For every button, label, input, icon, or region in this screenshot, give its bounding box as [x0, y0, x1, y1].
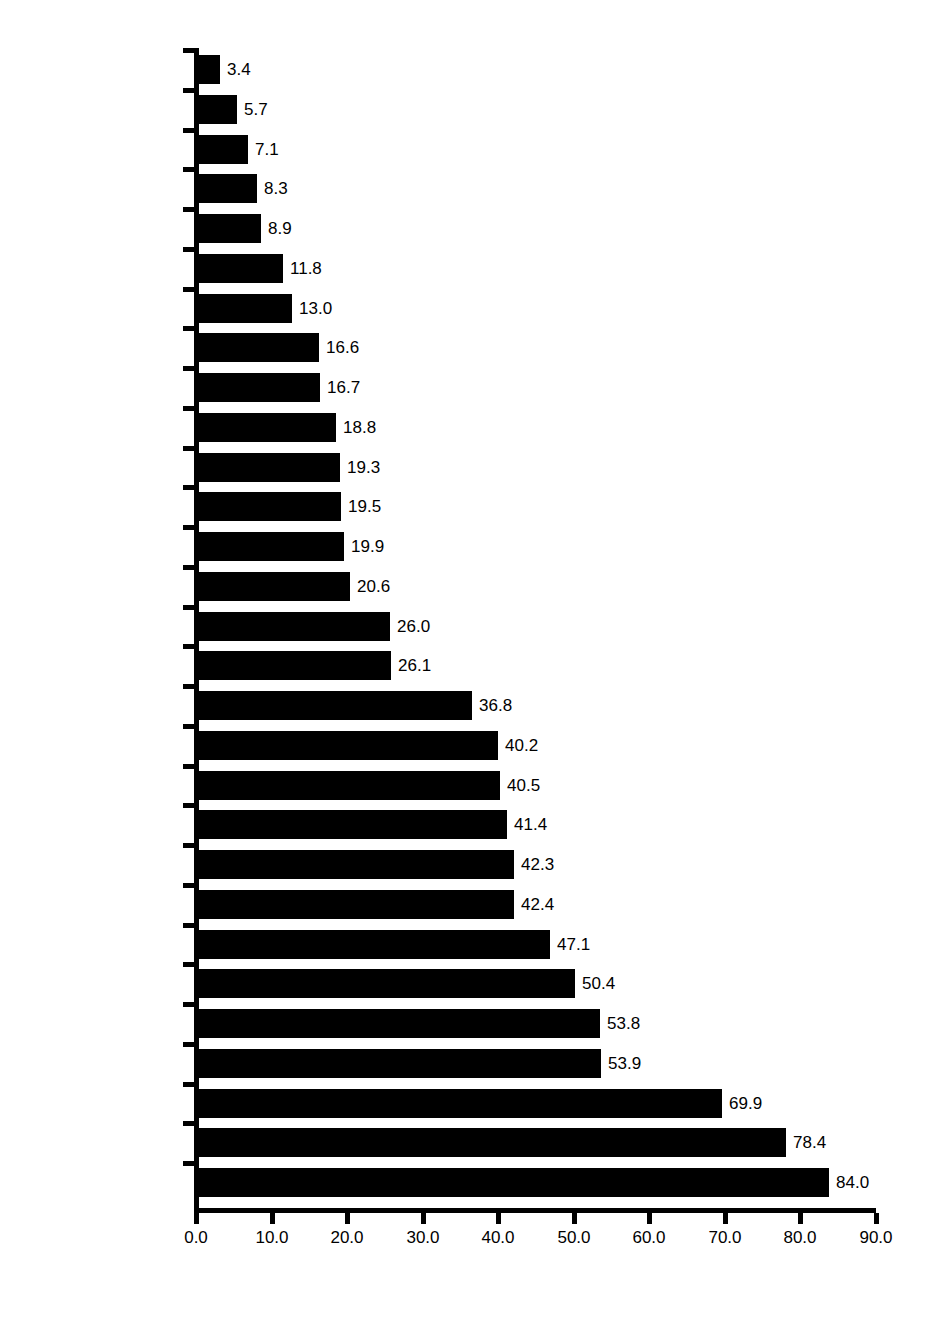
- bar-row: Guatemala41.4: [194, 810, 874, 839]
- bar-value-label: 53.8: [600, 1009, 640, 1038]
- x-axis-tick-label: 20.0: [307, 1228, 387, 1248]
- bar-value-label: 84.0: [829, 1168, 869, 1197]
- x-axis-tick-label: 80.0: [760, 1228, 840, 1248]
- bar-value-label: 47.1: [550, 930, 590, 959]
- bar: [194, 1168, 829, 1197]
- bar: [194, 930, 550, 959]
- x-axis-tick: [345, 1213, 350, 1224]
- y-axis-tick: [183, 406, 194, 411]
- bar-value-label: 40.5: [500, 771, 540, 800]
- y-axis-tick: [183, 247, 194, 252]
- bar-row: Trinidad40.2: [194, 731, 874, 760]
- y-axis-tick: [183, 803, 194, 808]
- y-axis-tick: [183, 684, 194, 689]
- bar-value-label: 36.8: [472, 691, 512, 720]
- x-axis-tick: [194, 1213, 199, 1224]
- bar: [194, 254, 283, 283]
- bar-value-label: 11.8: [283, 254, 322, 283]
- x-axis-tick: [798, 1213, 803, 1224]
- x-axis-tick: [421, 1213, 426, 1224]
- bar-value-label: 19.3: [340, 453, 380, 482]
- y-axis-tick: [183, 962, 194, 967]
- bar-value-label: 19.9: [344, 532, 384, 561]
- y-axis-tick: [183, 287, 194, 292]
- x-axis-tick: [496, 1213, 501, 1224]
- bar-row: Dominica8.9: [194, 214, 874, 243]
- bar-value-label: 3.4: [220, 55, 251, 84]
- y-axis-tick: [183, 1082, 194, 1087]
- y-axis-tick: [183, 644, 194, 649]
- bar: [194, 413, 336, 442]
- bar-value-label: 20.6: [350, 572, 390, 601]
- bar: [194, 771, 500, 800]
- bar-row: El Salvador19.3: [194, 453, 874, 482]
- bar-row: Argentina8.3: [194, 174, 874, 203]
- y-axis-tick: [183, 48, 194, 53]
- x-axis-tick-label: 50.0: [534, 1228, 614, 1248]
- y-axis-tick: [183, 326, 194, 331]
- y-axis-tick: [183, 207, 194, 212]
- y-axis-tick: [183, 128, 194, 133]
- bar-row: Chile16.6: [194, 333, 874, 362]
- bar-value-label: 42.4: [514, 890, 554, 919]
- bar-value-label: 16.7: [320, 373, 360, 402]
- bar: [194, 453, 340, 482]
- y-axis-tick: [183, 1161, 194, 1166]
- bar-row: Ecuador36.8: [194, 691, 874, 720]
- bar: [194, 214, 261, 243]
- bar-row: Grenada11.8: [194, 254, 874, 283]
- bar-row: Barbados16.7: [194, 373, 874, 402]
- bar-value-label: 5.7: [237, 95, 268, 124]
- y-axis-tick: [183, 883, 194, 888]
- bar-row: Uruguay7.1: [194, 135, 874, 164]
- bar: [194, 532, 344, 561]
- plot-area: Paraguay3.4St. Vincent5.7Uruguay7.1Argen…: [194, 55, 874, 1208]
- bar-value-label: 41.4: [507, 810, 547, 839]
- y-axis-tick: [183, 565, 194, 570]
- y-axis-tick: [183, 88, 194, 93]
- y-axis-tick: [183, 1002, 194, 1007]
- bar-row: Dominican Republic47.1: [194, 930, 874, 959]
- bar: [194, 373, 320, 402]
- bar: [194, 691, 472, 720]
- bar: [194, 55, 220, 84]
- bar-value-label: 26.1: [391, 651, 431, 680]
- bar: [194, 651, 391, 680]
- x-axis-tick-label: 10.0: [232, 1228, 312, 1248]
- y-axis-tick: [183, 1121, 194, 1126]
- chart-page: Paraguay3.4St. Vincent5.7Uruguay7.1Argen…: [0, 0, 933, 1318]
- y-axis-tick: [183, 167, 194, 172]
- bar-row: Bolivia26.1: [194, 651, 874, 680]
- bar-value-label: 50.4: [575, 969, 615, 998]
- bar: [194, 1009, 600, 1038]
- bar-value-label: 69.9: [722, 1089, 762, 1118]
- x-axis-tick-label: 90.0: [836, 1228, 916, 1248]
- bar-value-label: 8.3: [257, 174, 288, 203]
- bar: [194, 174, 257, 203]
- x-axis-tick-label: 70.0: [685, 1228, 765, 1248]
- bar-row: Venezuela53.9: [194, 1049, 874, 1078]
- bar-value-label: 19.5: [341, 492, 381, 521]
- y-axis-tick: [183, 843, 194, 848]
- y-axis-tick: [183, 724, 194, 729]
- bar-row: Panama13.0: [194, 294, 874, 323]
- y-axis-tick: [183, 605, 194, 610]
- bar-row: Peru19.9: [194, 532, 874, 561]
- bar: [194, 492, 341, 521]
- x-axis-tick: [270, 1213, 275, 1224]
- bar-row: Honduras69.9: [194, 1089, 874, 1118]
- x-axis-tick-label: 30.0: [383, 1228, 463, 1248]
- bar-row: Guyana20.6: [194, 572, 874, 601]
- bar: [194, 135, 248, 164]
- bar-row: Brazil19.5: [194, 492, 874, 521]
- bar: [194, 810, 507, 839]
- bar-value-label: 8.9: [261, 214, 292, 243]
- y-axis-tick: [183, 525, 194, 530]
- bar-row: Bahamas26.0: [194, 612, 874, 641]
- bar-value-label: 40.2: [498, 731, 538, 760]
- bar-value-label: 53.9: [601, 1049, 641, 1078]
- y-axis-tick: [183, 485, 194, 490]
- bar-value-label: 13.0: [292, 294, 332, 323]
- x-axis-line: [194, 1208, 876, 1213]
- bar: [194, 612, 390, 641]
